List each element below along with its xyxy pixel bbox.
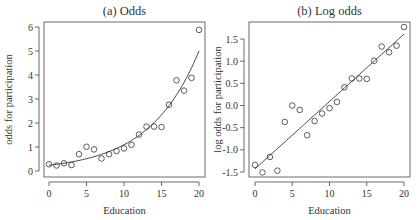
fitted-curve xyxy=(49,51,199,165)
y-tick-label: 3 xyxy=(28,94,33,105)
y-tick-label: 1.0 xyxy=(226,56,239,67)
plot-frame xyxy=(44,22,205,177)
data-point xyxy=(159,124,165,130)
data-point xyxy=(334,99,340,105)
y-tick-label: 5 xyxy=(28,46,33,57)
y-tick-label: 4 xyxy=(28,70,33,81)
data-point xyxy=(386,50,392,56)
x-tick-label: 15 xyxy=(157,188,167,199)
data-point xyxy=(304,132,310,138)
y-axis-label: log odds for participation xyxy=(212,46,223,153)
data-point xyxy=(106,151,112,157)
x-tick-label: 0 xyxy=(253,188,258,199)
x-tick-label: 10 xyxy=(325,188,335,199)
chart-title: (b) Log odds xyxy=(297,4,362,18)
fitted-curve xyxy=(255,34,404,169)
data-point xyxy=(349,76,355,82)
data-point xyxy=(121,146,127,152)
data-point xyxy=(319,111,325,117)
data-point xyxy=(342,85,348,91)
data-point xyxy=(174,77,180,83)
data-point xyxy=(99,156,105,162)
y-tick-label: 0 xyxy=(28,166,33,177)
x-tick-label: 5 xyxy=(84,188,89,199)
data-point xyxy=(297,107,303,113)
panel-log-odds: (b) Log odds05101520Education-1.5-1.0-0.… xyxy=(212,4,410,216)
figure-canvas: (a) Odds05101520Education0123456odds for… xyxy=(0,0,418,220)
y-tick-label: 1 xyxy=(28,142,33,153)
y-tick-label: 6 xyxy=(28,22,33,33)
y-tick-label: -0.5 xyxy=(222,122,238,133)
y-tick-label: -1.0 xyxy=(222,144,238,155)
x-tick-label: 20 xyxy=(399,188,409,199)
data-point xyxy=(327,105,333,111)
x-tick-label: 5 xyxy=(290,188,295,199)
data-point xyxy=(379,44,385,50)
data-point xyxy=(357,76,363,82)
data-point xyxy=(166,102,172,108)
x-tick-label: 20 xyxy=(194,188,204,199)
data-point xyxy=(91,147,97,153)
y-tick-label: 1.5 xyxy=(226,34,239,45)
data-point xyxy=(275,168,281,174)
data-point xyxy=(394,43,400,49)
data-point xyxy=(69,162,75,168)
data-point xyxy=(84,144,90,150)
x-tick-label: 0 xyxy=(47,188,52,199)
y-axis-label: odds for participation xyxy=(3,54,14,145)
y-tick-label: -1.5 xyxy=(222,167,238,178)
figure: (a) Odds05101520Education0123456odds for… xyxy=(0,0,418,220)
data-point xyxy=(76,151,82,157)
x-axis-label: Education xyxy=(308,205,351,216)
data-point xyxy=(46,161,52,167)
data-point xyxy=(144,124,150,130)
y-tick-label: 2 xyxy=(28,118,33,129)
panel-odds: (a) Odds05101520Education0123456odds for… xyxy=(3,4,205,216)
data-point xyxy=(196,27,202,33)
data-point xyxy=(289,103,295,109)
x-tick-label: 15 xyxy=(362,188,372,199)
data-point xyxy=(151,124,157,130)
data-point xyxy=(114,148,120,154)
data-point xyxy=(364,76,370,82)
y-tick-label: 0.0 xyxy=(226,100,239,111)
data-point xyxy=(401,24,407,30)
data-point xyxy=(282,119,288,125)
data-point xyxy=(181,88,187,94)
x-axis-label: Education xyxy=(103,205,146,216)
data-point xyxy=(189,75,195,81)
y-tick-label: 0.5 xyxy=(226,78,239,89)
data-point xyxy=(312,118,318,124)
data-point xyxy=(260,170,266,176)
data-point xyxy=(54,163,60,169)
data-point xyxy=(252,162,258,168)
data-point xyxy=(129,142,135,148)
x-tick-label: 10 xyxy=(119,188,129,199)
plot-frame xyxy=(249,22,410,177)
chart-title: (a) Odds xyxy=(103,4,147,18)
